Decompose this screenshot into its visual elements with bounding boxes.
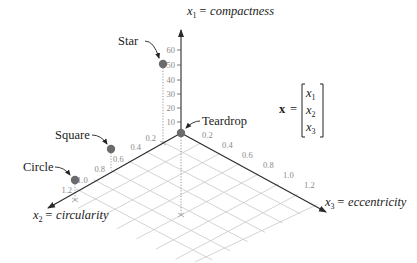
vector-component-2: x2 [305,103,316,119]
label-teardrop: Teardrop [202,114,247,128]
point-square [107,145,115,153]
point-circle [71,176,79,184]
x3-axis-label: x3= eccentricity [324,195,407,211]
x1-tick-label: 50 [167,60,176,70]
x2-tick-label: 0.8 [94,164,105,174]
x3-ticks: 0.2 0.4 0.6 0.8 1.0 1.2 [202,130,315,190]
x1-tick-label: 20 [167,103,176,113]
vector-symbol: x [279,102,286,116]
vector-definition: x = x1 x2 x3 [279,84,323,137]
point-star [159,60,167,68]
x3-tick-label: 1.0 [283,170,294,180]
label-circle: Circle [23,160,54,174]
x3-tick-label: 0.8 [263,160,274,170]
x1-tick-label: 30 [167,89,176,99]
axes [48,30,326,212]
vector-component-3: x3 [305,120,316,136]
x3-tick-label: 1.2 [304,180,315,190]
x2-tick-label: 0.4 [130,142,141,152]
x1-tick-label: 40 [167,75,176,85]
label-square: Square [55,128,90,142]
x3-tick-label: 0.2 [202,130,213,140]
left-bracket [302,84,305,137]
x2-axis-label: x2= circularity [32,208,109,224]
x2-tick-label: 0.2 [145,133,156,143]
x1-tick-label: 10 [167,117,176,127]
x3-tick-label: 0.6 [242,150,253,160]
label-star: Star [118,34,139,48]
x1-axis-label: x1= compactness [186,4,274,20]
x3-tick-label: 0.4 [222,140,233,150]
point-teardrop [177,129,185,137]
x1-ticks: 10 20 30 40 50 60 [167,45,182,127]
x1-tick-label: 60 [167,45,176,55]
feature-space-diagram: 10 20 30 40 50 60 0.2 0.4 0.6 0.8 1.0 1.… [0,0,417,263]
vector-component-1: x1 [305,86,316,102]
right-bracket [320,84,323,137]
point-labels: Star Teardrop Square Circle [23,34,247,175]
x2-tick-label: 1.2 [61,185,72,195]
vector-equals: = [290,102,297,116]
x2-ticks: 0.2 0.4 0.6 0.8 1.0 1.2 [61,133,156,195]
x2-tick-label: 0.6 [113,154,124,164]
